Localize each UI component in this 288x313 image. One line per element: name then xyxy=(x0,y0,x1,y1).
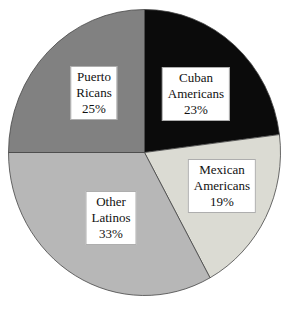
slice-percent: 19% xyxy=(194,194,250,210)
slice-name-line: Americans xyxy=(168,86,224,102)
slice-name-line: Ricans xyxy=(76,85,111,101)
slice-name-line: Latinos xyxy=(92,210,131,226)
slice-label-mexican-americans: MexicanAmericans19% xyxy=(188,159,256,213)
slice-label-other-latinos: OtherLatinos33% xyxy=(86,191,137,245)
slice-name-line: Other xyxy=(92,194,131,210)
slice-percent: 33% xyxy=(92,226,131,242)
slice-name-line: Puerto xyxy=(76,69,111,85)
pie-chart: CubanAmericans23%MexicanAmericans19%Othe… xyxy=(0,0,288,313)
slice-label-cuban-americans: CubanAmericans23% xyxy=(162,67,230,121)
slice-name-line: Mexican xyxy=(194,162,250,178)
slice-label-puerto-ricans: PuertoRicans25% xyxy=(70,66,117,120)
slice-percent: 25% xyxy=(76,101,111,117)
slice-name-line: Cuban xyxy=(168,70,224,86)
slice-percent: 23% xyxy=(168,102,224,118)
pie-svg xyxy=(0,0,288,313)
slice-name-line: Americans xyxy=(194,178,250,194)
